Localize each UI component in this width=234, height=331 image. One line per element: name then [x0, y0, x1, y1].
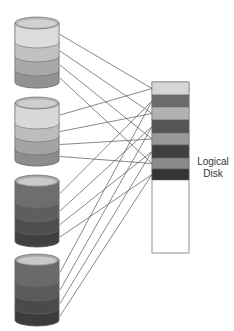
- disk-1: [15, 17, 59, 88]
- disk-3: [15, 175, 59, 247]
- connection-line: [60, 35, 152, 89]
- connection-lines: [60, 35, 152, 317]
- logical-stripe: [152, 158, 189, 169]
- connection-line: [60, 175, 152, 317]
- logical-stripe: [152, 120, 189, 133]
- logical-disk-label-line2: Disk: [192, 168, 234, 180]
- disk-4: [15, 254, 59, 326]
- connection-line: [60, 101, 152, 194]
- logical-stripe: [152, 95, 189, 107]
- connection-line: [60, 152, 152, 225]
- connection-line: [60, 114, 152, 132]
- physical-disks: [15, 17, 59, 326]
- connection-line: [60, 51, 152, 114]
- connection-line: [60, 101, 152, 273]
- connection-line: [60, 139, 152, 145]
- connection-line: [60, 127, 152, 291]
- connection-line: [60, 89, 152, 116]
- logical-stripe: [152, 107, 189, 120]
- logical-disk-label-line1: Logical: [192, 156, 234, 168]
- logical-stripe: [152, 169, 189, 180]
- disk-2: [15, 97, 59, 166]
- logical-disk-label: Logical Disk: [192, 156, 234, 180]
- logical-stripe: [152, 133, 189, 145]
- logical-disk: [152, 82, 189, 253]
- logical-stripe: [152, 82, 189, 95]
- connection-line: [60, 127, 152, 212]
- logical-stripe: [152, 145, 189, 158]
